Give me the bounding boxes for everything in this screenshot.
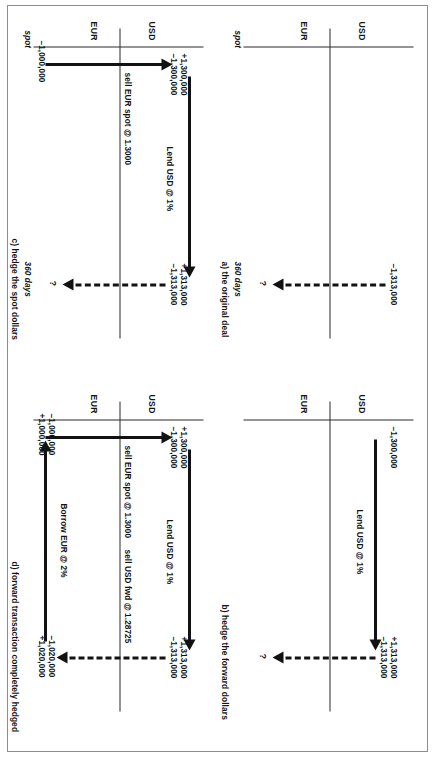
maturity-usd-out-c: –1,313,000 bbox=[168, 263, 177, 305]
maturity-eur-in-d: +1,020,000 bbox=[36, 635, 45, 677]
spot-fx-arrow-c bbox=[45, 58, 171, 70]
panel-original-deal: EUR USD spot 360 days –1,313,000 ? a) th… bbox=[218, 6, 427, 378]
currency-header-usd-a: USD bbox=[355, 21, 365, 40]
spot-eur-amount-c: –1,000,000 bbox=[36, 40, 45, 82]
lend-usd-label-c: Lend USD @ 1% bbox=[164, 146, 173, 211]
spot-usd-out-c: –1,300,000 bbox=[168, 53, 177, 95]
lend-usd-arrow-b bbox=[369, 439, 381, 649]
maturity-usd-amount-a: –1,313,000 bbox=[388, 263, 397, 305]
unknown-marker-a: ? bbox=[257, 280, 267, 286]
maturity-usd-in-b: +1,313,000 bbox=[388, 636, 397, 678]
panel-hedge-forward-dollars: EUR USD Lend USD @ 1% –1,300,000 +1,313,… bbox=[218, 379, 427, 751]
spot-fx-label-d: sell EUR spot @ 1.3000 bbox=[122, 445, 131, 538]
currency-header-usd-d: USD bbox=[145, 394, 155, 413]
scanned-page-frame: EUR USD spot 360 days –1,313,000 ? a) th… bbox=[7, 5, 428, 752]
unknown-marker-b: ? bbox=[257, 653, 267, 659]
figure-canvas: EUR USD spot 360 days –1,313,000 ? a) th… bbox=[8, 6, 427, 751]
currency-header-eur-b: EUR bbox=[297, 394, 307, 413]
unknown-flow-arrow-c bbox=[63, 278, 165, 290]
lend-usd-arrow-c bbox=[183, 76, 195, 276]
borrow-eur-label-d: Borrow EUR @ 2% bbox=[58, 503, 67, 577]
forward-fx-arrow-d bbox=[57, 651, 165, 663]
lend-usd-label-b: Lend USD @ 1% bbox=[354, 509, 363, 574]
time-label-maturity-a: 360 days bbox=[232, 261, 241, 296]
spot-axis-line-a bbox=[243, 46, 413, 47]
spot-usd-amount-b: –1,300,000 bbox=[388, 426, 397, 468]
currency-header-eur-c: EUR bbox=[87, 21, 97, 40]
time-label-maturity-c: 360 days bbox=[22, 261, 31, 296]
spot-axis-line-c bbox=[33, 46, 203, 47]
spot-axis-line-b bbox=[243, 419, 413, 420]
currency-divider-line-a bbox=[329, 28, 330, 338]
spot-fx-label-c: sell EUR spot @ 1.3000 bbox=[122, 72, 131, 165]
panel-forward-fully-hedged: EUR USD sell EUR spot @ 1.3000 –1,000,00… bbox=[8, 379, 217, 751]
panel-caption-a: a) the original deal bbox=[219, 261, 228, 337]
unknown-marker-c: ? bbox=[47, 280, 57, 286]
spot-axis-line-d bbox=[33, 419, 203, 420]
spot-usd-out-d: –1,300,000 bbox=[168, 426, 177, 468]
spot-fx-arrow-d bbox=[45, 431, 171, 443]
currency-header-usd-b: USD bbox=[355, 394, 365, 413]
panel-caption-c: c) hedge the spot dollars bbox=[9, 238, 18, 340]
maturity-usd-out-b: –1,313,000 bbox=[378, 636, 387, 678]
currency-divider-line-d bbox=[119, 401, 120, 711]
currency-header-usd-c: USD bbox=[145, 21, 155, 40]
currency-header-eur-d: EUR bbox=[87, 394, 97, 413]
lend-usd-arrow-d bbox=[183, 449, 195, 649]
maturity-usd-in-c: +1,313,000 bbox=[178, 263, 187, 305]
panel-hedge-spot-dollars: EUR USD spot 360 days sell EUR spot @ 1.… bbox=[8, 6, 217, 378]
lend-usd-label-d: Lend USD @ 1% bbox=[164, 519, 173, 584]
borrow-eur-arrow-d bbox=[39, 441, 51, 641]
panel-caption-b: b) hedge the forward dollars bbox=[219, 604, 228, 719]
time-label-spot-c: spot bbox=[22, 30, 31, 48]
maturity-usd-out-d: –1,313,000 bbox=[168, 636, 177, 678]
unknown-flow-arrow-a bbox=[273, 278, 385, 290]
maturity-usd-in-d: +1,313,000 bbox=[178, 636, 187, 678]
unknown-flow-arrow-b bbox=[273, 651, 375, 663]
currency-divider-line-b bbox=[329, 401, 330, 711]
time-label-spot-a: spot bbox=[232, 30, 241, 48]
currency-header-eur-a: EUR bbox=[297, 21, 307, 40]
currency-divider-line-c bbox=[119, 28, 120, 338]
maturity-eur-out-d: –1,020,000 bbox=[46, 635, 55, 677]
panel-caption-d: d) forward transaction completely hedged bbox=[9, 561, 18, 732]
forward-fx-label-d: sell USD fwd @ 1.28725 bbox=[122, 549, 131, 643]
